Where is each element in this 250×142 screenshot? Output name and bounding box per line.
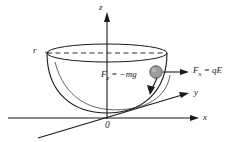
gravity-force-expression: = −mg (109, 69, 137, 79)
electric-force-arrow (163, 69, 189, 75)
bead-highlight (152, 68, 156, 72)
z-axis-label: z (99, 3, 103, 12)
z-axis (104, 12, 110, 119)
y-axis-label: y (194, 88, 198, 97)
radius-label: r (33, 46, 37, 55)
physics-figure: z x y 0 r Fx = qE Fz = −mg (0, 0, 250, 142)
z-axis-arrowhead (104, 12, 110, 22)
radius-marker (45, 52, 49, 53)
x-axis-arrowhead (190, 115, 199, 121)
origin-label: 0 (105, 121, 110, 131)
electric-force-label: Fx = qE (193, 66, 222, 77)
y-axis-arrowhead (179, 92, 189, 98)
x-axis-label: x (203, 113, 207, 122)
electric-force-arrowhead (180, 69, 189, 75)
electric-force-expression: = qE (201, 65, 222, 75)
y-axis (38, 92, 189, 138)
charged-bead (150, 66, 162, 78)
gravity-force-label: Fz = −mg (101, 70, 137, 81)
